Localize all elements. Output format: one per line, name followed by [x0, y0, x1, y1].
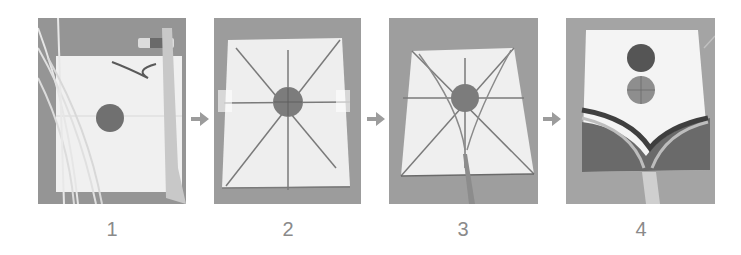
step-3-photo: [389, 18, 538, 204]
arrow-right-icon-3: [543, 112, 561, 126]
step-number-4: 4: [621, 218, 661, 241]
step-number-1: 1: [92, 218, 132, 241]
step-1-photo: [38, 18, 186, 204]
arrow-right-icon-1: [191, 112, 209, 126]
arrow-right-icon-2: [367, 112, 385, 126]
step-number-3: 3: [443, 218, 483, 241]
step-2-photo: [214, 18, 361, 204]
step-number-2: 2: [268, 218, 308, 241]
step-4-photo: [566, 18, 715, 204]
